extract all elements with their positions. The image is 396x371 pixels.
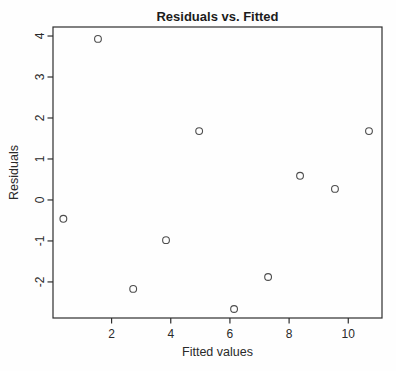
data-point — [231, 306, 238, 313]
data-point — [130, 286, 137, 293]
data-point — [265, 274, 272, 281]
data-point — [163, 237, 170, 244]
data-point — [297, 172, 304, 179]
y-tick-label: 3 — [33, 73, 47, 80]
plot-box — [53, 27, 382, 318]
y-tick-label: -2 — [33, 276, 47, 287]
plot-title: Residuals vs. Fitted — [156, 9, 278, 24]
plot-elements: 246810-2-101234 — [33, 27, 382, 341]
r-plot-figure: Residuals vs. Fitted Fitted values Resid… — [0, 0, 396, 371]
data-point — [196, 128, 203, 135]
x-tick-label: 2 — [108, 327, 115, 341]
y-tick-label: 0 — [33, 196, 47, 203]
data-point — [60, 215, 67, 222]
x-tick-label: 4 — [167, 327, 174, 341]
x-tick-label: 6 — [227, 327, 234, 341]
x-axis-label: Fitted values — [182, 345, 253, 359]
data-point — [366, 128, 373, 135]
data-point — [332, 185, 339, 192]
data-point — [95, 35, 102, 42]
x-tick-label: 8 — [286, 327, 293, 341]
y-tick-label: 4 — [33, 32, 47, 39]
scatter-plot-canvas: Residuals vs. Fitted Fitted values Resid… — [0, 0, 396, 371]
x-tick-label: 10 — [342, 327, 356, 341]
y-axis-label: Residuals — [7, 145, 21, 200]
y-tick-label: -1 — [33, 235, 47, 246]
y-tick-label: 2 — [33, 114, 47, 121]
y-tick-label: 1 — [33, 155, 47, 162]
